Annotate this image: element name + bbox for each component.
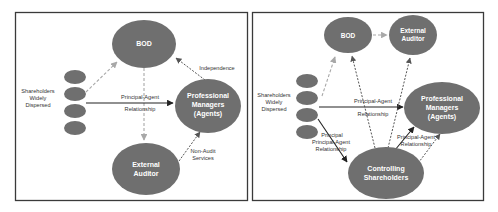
node-managers-label-3: (Agents)	[428, 113, 456, 121]
node-bod-label: BOD	[341, 32, 356, 39]
node-auditor-label-2: Auditor	[134, 170, 159, 177]
edge-label-principal-agent-left-1: Principal	[321, 132, 342, 138]
edge-label-independence: Independence	[199, 65, 234, 71]
shareholders-label-3: Dispersed	[261, 106, 286, 112]
shareholders-label-3: Dispersed	[25, 102, 50, 108]
node-auditor-label-1: External	[400, 27, 426, 34]
node-managers-label-1: Professional	[421, 95, 463, 102]
shareholder-dot	[296, 108, 318, 122]
node-external-auditor	[112, 143, 180, 195]
edge-label-principal-agent-right-1: Principal-Agent	[397, 134, 435, 140]
shareholders-label-2: Widely	[30, 95, 47, 101]
left-panel: BOD Professional Managers (Agents) Exter…	[16, 13, 248, 201]
edge-label-principal-agent-1: Principal-Agent	[121, 94, 159, 100]
node-managers-label-1: Professional	[187, 92, 229, 99]
shareholder-dot	[64, 70, 86, 84]
shareholders-label-1: Shareholders	[257, 92, 290, 98]
shareholders-label-2: Widely	[266, 99, 283, 105]
shareholder-dot	[296, 91, 318, 105]
edge-label-principal-agent-top-2: Relationship	[358, 111, 389, 117]
edge-label-principal-agent-top-1: Principal-Agent	[354, 98, 392, 104]
edge-label-principal-agent-left-3: Relationship	[316, 146, 347, 152]
edge-label-non-audit-1: Non-Audit	[191, 148, 216, 154]
node-controlling-label-1: Controlling	[367, 165, 404, 173]
shareholder-dot	[64, 104, 86, 118]
node-controlling-label-2: Shareholders	[364, 174, 409, 181]
node-auditor-label-2: Auditor	[401, 35, 425, 42]
node-managers-label-2: Managers	[426, 104, 459, 112]
diagram-canvas: BOD Professional Managers (Agents) Exter…	[0, 0, 498, 212]
node-managers-label-2: Managers	[192, 101, 225, 109]
node-auditor-label-1: External	[132, 161, 160, 168]
shareholder-dot	[64, 87, 86, 101]
edge-label-principal-agent-right-2: Relationship	[401, 141, 432, 147]
shareholder-dot	[296, 125, 318, 139]
edge-label-principal-agent-left-2: Principal-Agent	[312, 139, 350, 145]
edge-label-non-audit-2: Services	[192, 155, 214, 161]
shareholders-label-1: Shareholders	[21, 88, 54, 94]
shareholder-dot	[296, 74, 318, 88]
right-panel: BOD External Auditor Professional Manage…	[253, 13, 484, 201]
node-controlling-shareholders	[348, 147, 424, 199]
edge-label-principal-agent-2: Relationship	[125, 106, 156, 112]
node-managers-label-3: (Agents)	[194, 110, 222, 118]
shareholder-dot	[64, 121, 86, 135]
node-bod-label: BOD	[136, 40, 152, 47]
